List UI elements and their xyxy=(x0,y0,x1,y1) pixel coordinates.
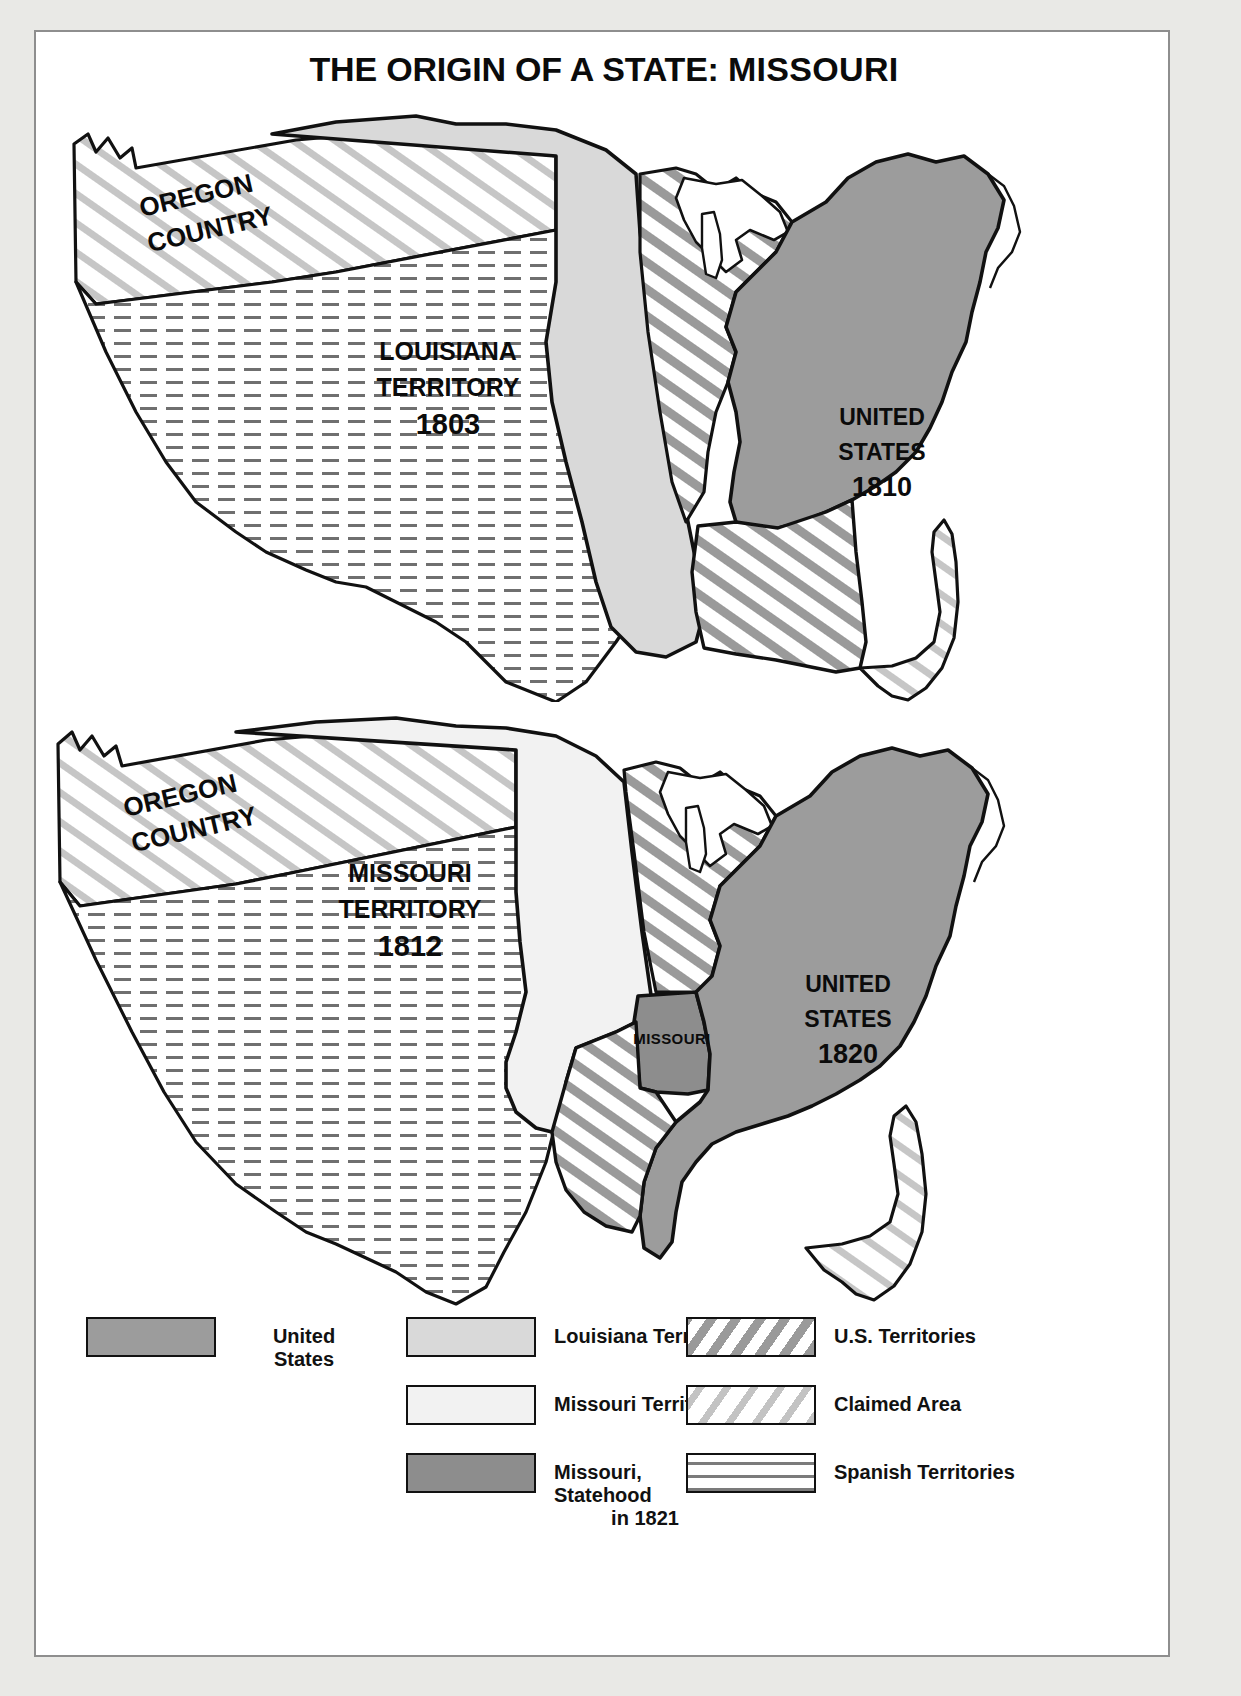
region-florida-claimed xyxy=(860,520,958,700)
legend-item-claimed-area: Claimed Area xyxy=(686,1385,1106,1431)
legend-label-line-2: States xyxy=(232,1348,376,1371)
map-svg-top: OREGON COUNTRY LOUISIANA TERRITORY 1803 … xyxy=(36,82,1172,702)
label-louisiana-territory-line2: TERRITORY xyxy=(376,373,519,401)
legend-label-spanish-territories: Spanish Territories xyxy=(834,1453,1015,1484)
label-missouri-territory-line2: TERRITORY xyxy=(338,895,481,923)
legend-label-claimed-area: Claimed Area xyxy=(834,1385,961,1416)
label-missouri-territory-year: 1812 xyxy=(378,930,443,962)
label-louisiana-territory-year: 1803 xyxy=(416,408,481,440)
header-strip xyxy=(0,0,1241,30)
legend-swatch-united-states xyxy=(86,1317,216,1357)
label-missouri-state: MISSOURI xyxy=(633,1030,710,1047)
legend-column-3: U.S. Territories Claimed Area Spanish Te… xyxy=(686,1317,1106,1521)
label-united-states-year: 1810 xyxy=(852,472,912,502)
legend-label-united-states: United States xyxy=(232,1317,376,1371)
label-louisiana-territory-line1: LOUISIANA xyxy=(379,337,517,365)
label-united-states-line1: UNITED xyxy=(839,404,925,430)
legend-swatch-us-territories xyxy=(686,1317,816,1357)
legend-swatch-missouri-statehood xyxy=(406,1453,536,1493)
legend-item-spanish-territories: Spanish Territories xyxy=(686,1453,1106,1499)
label-united-states-line2: STATES xyxy=(804,1006,891,1032)
label-united-states-line2: STATES xyxy=(838,439,925,465)
map-sheet: THE ORIGIN OF A STATE: MISSOURI xyxy=(34,30,1170,1657)
label-missouri-territory-line1: MISSOURI xyxy=(348,859,472,887)
legend-label-line-1: United xyxy=(232,1325,376,1348)
legend-label-us-territories: U.S. Territories xyxy=(834,1317,976,1348)
legend-item-united-states: United States xyxy=(86,1317,376,1363)
map-svg-bottom: OREGON COUNTRY MISSOURI TERRITORY 1812 M… xyxy=(36,692,1172,1312)
map-legend: United States Louisiana Territory Missou… xyxy=(36,1317,1172,1517)
region-florida-claimed xyxy=(806,1106,926,1300)
label-united-states-year: 1820 xyxy=(818,1039,878,1069)
map-1812-1820: OREGON COUNTRY MISSOURI TERRITORY 1812 M… xyxy=(36,692,1172,1312)
label-united-states-line1: UNITED xyxy=(805,971,891,997)
map-1803-1810: OREGON COUNTRY LOUISIANA TERRITORY 1803 … xyxy=(36,82,1172,702)
legend-swatch-spanish-territories xyxy=(686,1453,816,1493)
legend-item-us-territories: U.S. Territories xyxy=(686,1317,1106,1363)
page-background: THE ORIGIN OF A STATE: MISSOURI xyxy=(0,0,1241,1696)
region-spanish-territories xyxy=(60,827,556,1304)
legend-swatch-louisiana-territory xyxy=(406,1317,536,1357)
legend-swatch-missouri-territory xyxy=(406,1385,536,1425)
legend-swatch-claimed-area xyxy=(686,1385,816,1425)
legend-column-1: United States xyxy=(86,1317,376,1385)
